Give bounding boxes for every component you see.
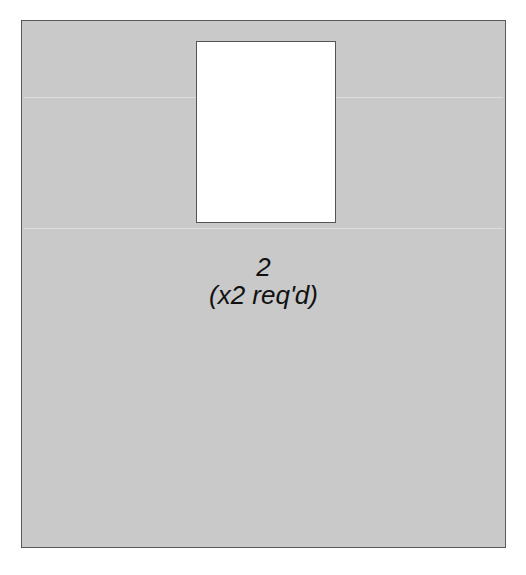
part-label: 2 (x2 req'd) bbox=[22, 253, 505, 309]
part-number: 2 bbox=[22, 253, 505, 281]
quantity-note: (x2 req'd) bbox=[22, 281, 505, 309]
fold-line-lower bbox=[24, 228, 503, 229]
part-panel: 2 (x2 req'd) bbox=[21, 20, 506, 548]
window-cutout bbox=[196, 41, 336, 223]
